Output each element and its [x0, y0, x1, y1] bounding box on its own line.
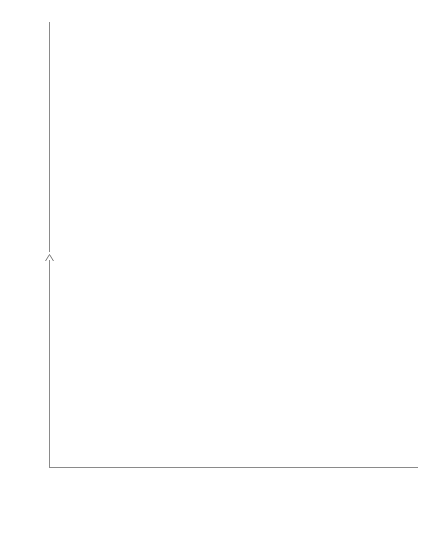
chart-inside-surface-heat-flux — [50, 260, 419, 468]
figure-root — [0, 0, 441, 546]
chart-canvas — [0, 0, 441, 546]
